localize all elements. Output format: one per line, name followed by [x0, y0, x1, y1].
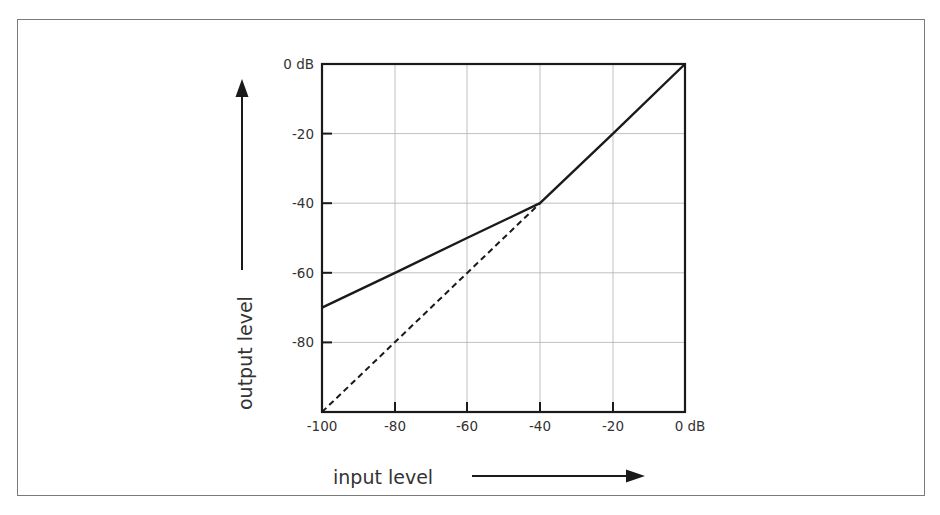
x-tick-label: 0 dB — [675, 418, 706, 434]
x-tick-label: -60 — [456, 418, 478, 434]
x-axis-title: input level — [333, 466, 433, 488]
x-tick-labels: -100 -80 -60 -40 -20 0 dB — [307, 418, 706, 434]
x-tick-label: -20 — [602, 418, 624, 434]
y-tick-labels: 0 dB -20 -40 -60 -80 — [283, 56, 314, 350]
y-axis-title: output level — [234, 296, 256, 410]
x-tick-label: -80 — [384, 418, 406, 434]
x-tick-label: -100 — [307, 418, 338, 434]
y-axis-arrow-icon — [236, 79, 249, 270]
y-tick-label: -80 — [292, 334, 314, 350]
compression-curve — [322, 64, 685, 308]
y-tick-label: -20 — [292, 126, 314, 142]
y-tick-label: -40 — [292, 195, 314, 211]
y-tick-label: 0 dB — [283, 56, 314, 72]
y-tick-label: -60 — [292, 265, 314, 281]
x-axis-arrow-icon — [472, 470, 645, 483]
x-tick-label: -40 — [529, 418, 551, 434]
chart: 0 dB -20 -40 -60 -80 -100 -80 -60 -40 -2… — [0, 0, 940, 515]
unity-dashed-line — [322, 203, 540, 412]
